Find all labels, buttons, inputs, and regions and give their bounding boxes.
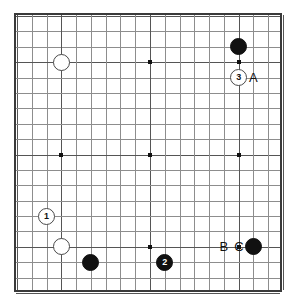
grid-line-horizontal (16, 278, 280, 279)
star-point (148, 245, 152, 249)
grid-line-horizontal (16, 185, 280, 186)
grid-line-vertical (165, 15, 166, 290)
grid-line-vertical (47, 15, 48, 290)
stone-black-upper-right[interactable] (230, 38, 247, 55)
grid-line-vertical (32, 15, 33, 290)
grid-line-horizontal (16, 16, 280, 17)
stone-black-move-2[interactable]: 2 (156, 254, 173, 271)
grid-line-vertical (17, 15, 18, 290)
point-label-c: C (234, 240, 243, 253)
stone-black-lower-right[interactable] (245, 238, 262, 255)
star-point (148, 153, 152, 157)
grid-line-horizontal (16, 93, 280, 94)
grid-line-horizontal (16, 108, 280, 109)
grid-line-horizontal (16, 231, 280, 232)
point-label-a: A (249, 71, 258, 84)
grid-line-vertical (106, 15, 107, 290)
grid-line-vertical (194, 15, 195, 290)
grid-line-vertical (76, 15, 77, 290)
grid-line-horizontal (16, 262, 280, 263)
grid-line-vertical (268, 15, 269, 290)
stone-white-move-1[interactable]: 1 (38, 208, 55, 225)
grid-line-vertical (135, 15, 136, 290)
stone-white-lower-left[interactable] (53, 238, 70, 255)
grid-line-horizontal (16, 201, 280, 202)
go-diagram: 312 ABC (0, 0, 295, 308)
grid-line-horizontal (16, 139, 280, 140)
stone-move-number: 2 (162, 258, 167, 267)
grid-line-vertical (283, 15, 284, 290)
star-point (237, 153, 241, 157)
grid-line-horizontal (16, 124, 280, 125)
grid-line-horizontal (16, 293, 280, 294)
grid-line-vertical (91, 15, 92, 290)
stone-move-number: 1 (44, 212, 49, 221)
grid-line-horizontal (16, 216, 280, 217)
grid-line-vertical (120, 15, 121, 290)
stone-black-lower-left[interactable] (82, 254, 99, 271)
stone-white-move-3[interactable]: 3 (230, 69, 247, 86)
grid-line-horizontal (16, 31, 280, 32)
stone-white-hoshi-upper-left[interactable] (53, 54, 70, 71)
grid-line-horizontal (16, 170, 280, 171)
point-label-b: B (219, 240, 228, 253)
go-board[interactable]: 312 ABC (14, 13, 282, 292)
star-point (59, 153, 63, 157)
star-point (237, 60, 241, 64)
stone-move-number: 3 (236, 73, 241, 82)
grid-line-vertical (209, 15, 210, 290)
grid-line-vertical (180, 15, 181, 290)
star-point (148, 60, 152, 64)
